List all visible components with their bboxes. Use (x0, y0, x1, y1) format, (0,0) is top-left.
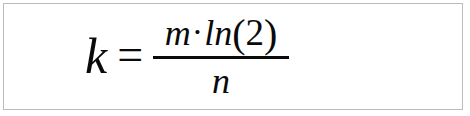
equation: k = m·ln(2) n (4, 4, 462, 109)
multiplication-dot: · (191, 13, 204, 50)
equation-row: k = m·ln(2) n (85, 11, 289, 101)
left-hand-variable: k (85, 31, 115, 81)
formula-image-frame: k = m·ln(2) n (3, 3, 463, 110)
denominator-variable-n: n (212, 61, 230, 101)
close-paren: ) (264, 11, 277, 56)
fraction-numerator: m·ln(2) (162, 10, 281, 55)
fraction-denominator: n (209, 59, 233, 101)
numerator-variable-m: m (165, 13, 191, 53)
open-paren: ( (232, 11, 245, 56)
fraction: m·ln(2) n (153, 10, 289, 100)
equals-sign: = (115, 32, 153, 78)
natural-log-function: ln (204, 13, 232, 53)
log-argument: 2 (246, 12, 265, 53)
